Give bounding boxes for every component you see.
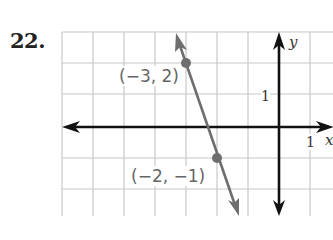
grid-lines — [62, 32, 333, 216]
point-b-label: (−2, −1) — [130, 166, 206, 186]
point-b-marker — [212, 153, 222, 163]
point-a-marker — [181, 58, 191, 68]
y-tick-label-1: 1 — [261, 88, 270, 104]
point-a-label: (−3, 2) — [118, 66, 180, 86]
y-axis-label: y — [289, 33, 297, 51]
x-tick-label-1: 1 — [306, 134, 315, 150]
x-axis-label: x — [325, 131, 333, 149]
